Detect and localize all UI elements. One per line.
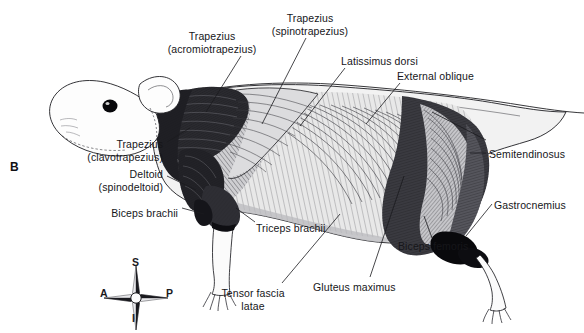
compass-letter-superior: S — [132, 256, 139, 268]
label-gluteus-maximus: Gluteus maximus — [313, 281, 396, 294]
label-gastrocnemius: Gastrocnemius — [494, 199, 566, 212]
rat-musculature-illustration — [0, 0, 584, 333]
label-deltoid-spinodeltoid: Deltoid (spinodeltoid) — [99, 168, 163, 193]
hindlimb — [476, 255, 506, 311]
forelimb — [212, 226, 233, 296]
label-trapezius-clavotrapezius: Trapezius (clavotrapezius) — [87, 138, 163, 163]
compass-letter-anterior: A — [100, 287, 108, 299]
anatomy-figure-panel: Trapezius (acromiotrapezius) Trapezius (… — [0, 0, 584, 333]
eye — [103, 100, 118, 113]
label-semitendinosus: Semitendinosus — [489, 148, 565, 161]
label-latissimus-dorsi: Latissimus dorsi — [341, 55, 418, 68]
anatomical-orientation-compass — [100, 262, 172, 333]
panel-letter: B — [10, 160, 19, 174]
label-biceps-femoris: Biceps femoris — [398, 240, 468, 253]
label-biceps-brachii: Biceps brachii — [111, 207, 178, 220]
compass-letter-posterior: P — [166, 287, 173, 299]
compass-letter-inferior: I — [132, 312, 135, 324]
label-trapezius-spinotrapezius: Trapezius (spinotrapezius) — [272, 12, 348, 37]
label-triceps-brachii: Triceps brachii — [256, 222, 325, 235]
label-trapezius-acromiotrapezius: Trapezius (acromiotrapezius) — [168, 30, 257, 55]
label-tensor-fascia-latae: Tensor fascia latae — [221, 287, 284, 312]
label-external-oblique: External oblique — [397, 70, 474, 83]
